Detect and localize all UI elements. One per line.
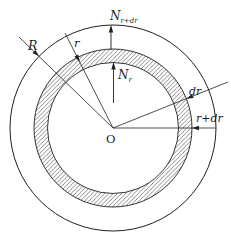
label-dr: dr [189,85,202,98]
label-N-r: Nr [117,68,133,84]
label-N-r-plus-dr-subscript: r+dr [121,17,139,25]
diagram-figure: R r Nr+dr Nr O dr r+dr [0,0,231,242]
ring-element-diagram: R r Nr+dr Nr O dr r+dr [0,0,231,242]
force-Nr-arrowhead [111,62,115,70]
label-r: r [74,36,81,50]
r-plus-dr-arrowhead [192,126,199,130]
label-R: R [27,38,37,53]
label-center-O: O [106,132,115,146]
radius-r-line [65,33,113,128]
label-N-r-plus-dr: Nr+dr [109,9,138,25]
label-r-plus-dr: r+dr [196,112,224,125]
label-N-r-subscript: r [129,76,133,84]
force-Nrdr-arrowhead [109,25,113,33]
